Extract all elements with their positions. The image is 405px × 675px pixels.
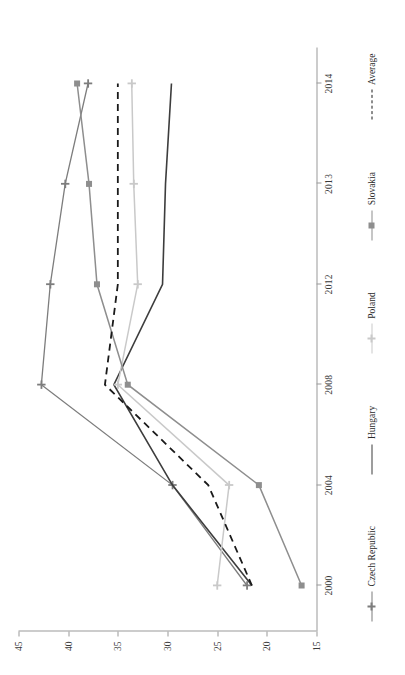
data-point-marker-plus bbox=[83, 79, 91, 87]
series-line-hungary bbox=[113, 83, 251, 585]
series-line-average bbox=[104, 83, 251, 585]
legend-label: Czech Republic bbox=[366, 526, 376, 586]
legend-label: Hungary bbox=[366, 405, 376, 438]
legend-swatch-icon bbox=[365, 323, 377, 353]
series-line-slovakia bbox=[77, 83, 301, 585]
legend-item-poland[interactable]: Poland bbox=[365, 292, 377, 353]
plot-wrap: 200020042008201220132014 15202530354045 … bbox=[0, 0, 405, 675]
data-point-marker-plus bbox=[129, 179, 137, 187]
legend-marker-square-icon bbox=[368, 222, 374, 228]
legend-label: Slovakia bbox=[366, 172, 376, 205]
legend-item-average[interactable]: Average bbox=[365, 53, 377, 119]
legend-label: Average bbox=[366, 53, 376, 84]
chart-plot-lines bbox=[0, 0, 405, 675]
legend-swatch-icon bbox=[365, 444, 377, 474]
legend-line bbox=[371, 90, 372, 120]
legend-label: Poland bbox=[366, 292, 376, 318]
data-point-marker-square bbox=[124, 381, 130, 387]
legend-item-czech-republic[interactable]: Czech Republic bbox=[365, 526, 377, 621]
data-point-marker-plus bbox=[127, 79, 135, 87]
series-line-czech-republic bbox=[41, 83, 247, 585]
legend-swatch-icon bbox=[365, 210, 377, 240]
chart-figure: 200020042008201220132014 15202530354045 … bbox=[0, 0, 405, 675]
legend-item-slovakia[interactable]: Slovakia bbox=[365, 172, 377, 240]
legend-marker-plus-icon bbox=[368, 603, 374, 609]
legend-marker-plus-icon bbox=[368, 335, 374, 341]
data-point-marker-plus bbox=[212, 581, 220, 589]
data-point-marker-square bbox=[255, 482, 261, 488]
data-point-marker-square bbox=[86, 180, 92, 186]
data-point-marker-square bbox=[298, 582, 304, 588]
legend-swatch-icon bbox=[365, 90, 377, 120]
data-point-marker-square bbox=[93, 281, 99, 287]
data-point-marker-square bbox=[74, 80, 80, 86]
legend-swatch-icon bbox=[365, 591, 377, 621]
series-line-poland bbox=[117, 83, 228, 585]
data-point-marker-plus bbox=[46, 280, 54, 288]
data-point-marker-plus bbox=[133, 280, 141, 288]
data-point-marker-plus bbox=[60, 179, 68, 187]
legend-item-hungary[interactable]: Hungary bbox=[365, 405, 377, 473]
legend-line bbox=[371, 444, 373, 474]
chart-legend: Czech RepublicHungaryPolandSlovakiaAvera… bbox=[356, 47, 386, 631]
